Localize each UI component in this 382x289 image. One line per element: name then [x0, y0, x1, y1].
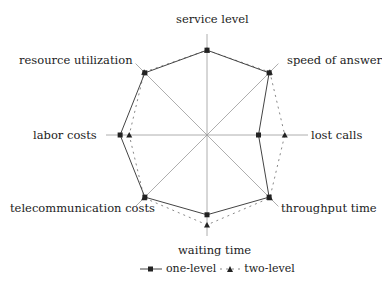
axis-label-lost-calls: lost calls — [311, 128, 362, 142]
axis-label-service-level: service level — [176, 12, 249, 26]
square-marker-icon — [118, 133, 123, 138]
axis-label-resource-utilization: resource utilization — [19, 53, 133, 67]
square-marker-icon — [142, 195, 147, 200]
legend-one-level-label: one-level — [166, 262, 216, 275]
legend-two-level-swatch-icon — [220, 264, 240, 274]
axis-label-telecommunication-costs: telecommunication costs — [10, 201, 155, 215]
legend-two-level-label: two-level — [244, 262, 294, 275]
legend-one-level-swatch-icon — [140, 264, 162, 274]
square-marker-icon — [256, 133, 261, 138]
square-marker-icon — [205, 48, 210, 53]
axis-label-waiting-time: waiting time — [178, 243, 251, 257]
legend: one-level two-level — [140, 262, 295, 275]
triangle-marker-icon — [204, 222, 210, 228]
axis-label-throughput-time: throughput time — [281, 201, 377, 215]
square-marker-icon — [205, 212, 210, 217]
square-marker-icon — [267, 70, 272, 75]
axis-label-labor-costs: labor costs — [33, 128, 97, 142]
axis-label-speed-of-answer: speed of answer — [287, 53, 382, 67]
series-one-level-markers — [118, 48, 272, 218]
square-marker-icon — [142, 70, 147, 75]
square-marker-icon — [267, 195, 272, 200]
